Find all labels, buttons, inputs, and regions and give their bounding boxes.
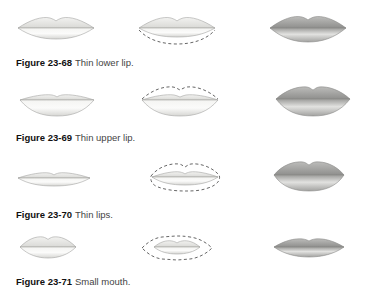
figure-caption: Figure 23-69Thin upper lip. xyxy=(16,132,135,143)
figure-23-71: Figure 23-71Small mouth. xyxy=(0,225,386,294)
caption-text: Thin upper lip. xyxy=(75,132,135,143)
lips-before-illustration xyxy=(18,233,78,261)
lips-corrected-illustration xyxy=(272,159,346,193)
figure-number: Figure 23-69 xyxy=(16,132,72,143)
lips-corrected-illustration xyxy=(272,235,346,259)
figure-23-70: Figure 23-70Thin lips. xyxy=(0,155,386,225)
lips-before-illustration xyxy=(18,88,96,118)
figure-caption: Figure 23-71Small mouth. xyxy=(16,276,130,287)
lips-corrected-illustration xyxy=(268,14,348,44)
caption-text: Thin lips. xyxy=(75,209,113,220)
caption-text: Thin lower lip. xyxy=(75,57,134,68)
lips-guide-illustration xyxy=(148,161,222,193)
lips-corrected-illustration xyxy=(274,84,352,118)
figure-caption: Figure 23-70Thin lips. xyxy=(16,209,113,220)
lips-guide-illustration xyxy=(136,14,218,46)
lips-before-illustration xyxy=(16,167,92,189)
figure-number: Figure 23-70 xyxy=(16,209,72,220)
lips-guide-illustration xyxy=(140,84,220,118)
figure-number: Figure 23-68 xyxy=(16,57,72,68)
figure-caption: Figure 23-68Thin lower lip. xyxy=(16,57,134,68)
figure-23-69: Figure 23-69Thin upper lip. xyxy=(0,80,386,150)
lips-guide-illustration xyxy=(140,233,214,263)
lips-before-illustration xyxy=(16,14,96,42)
figure-23-68: Figure 23-68Thin lower lip. xyxy=(0,0,386,72)
figure-number: Figure 23-71 xyxy=(16,276,72,287)
caption-text: Small mouth. xyxy=(75,276,130,287)
